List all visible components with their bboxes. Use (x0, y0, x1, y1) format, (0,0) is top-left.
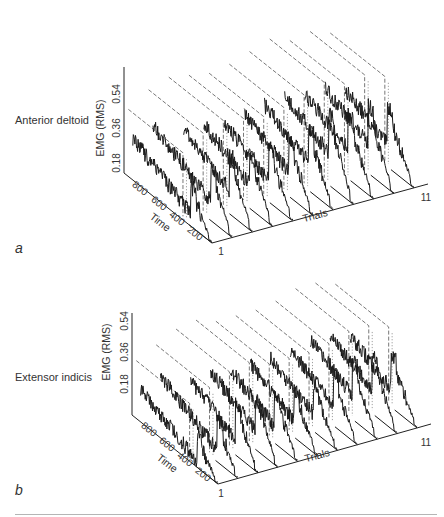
trials-tick-1: 1 (218, 488, 224, 499)
z-tick-1: 0.36 (111, 118, 122, 138)
z-axis-title: EMG (RMS) (100, 323, 112, 380)
z-tick-2: 0.54 (111, 84, 122, 104)
panel-a-plot: 0.18 0.36 0.54 EMG (RMS) 800 600 400 200… (94, 31, 432, 257)
trials-tick-11: 11 (421, 437, 432, 448)
emg-waterfall-figure: 0.18 0.36 0.54 EMG (RMS) 800 600 400 200… (0, 0, 444, 517)
trials-axis-title: Trials (303, 446, 331, 464)
time-tick-800: 800 (130, 179, 150, 198)
time-axis-title: Time (155, 451, 181, 475)
time-tick-600: 600 (149, 194, 169, 213)
z-tick-0: 0.18 (111, 153, 122, 173)
z-tick-2: 0.54 (119, 311, 130, 331)
z-tick-1: 0.36 (119, 342, 130, 362)
trials-tick-1: 1 (218, 246, 224, 257)
z-tick-0: 0.18 (119, 374, 130, 394)
bottom-rule (15, 514, 437, 515)
trials-tick-11: 11 (421, 192, 432, 203)
z-axis-title: EMG (RMS) (94, 99, 106, 156)
emg-trace-trial-9 (305, 91, 374, 199)
panel-b-plot: 0.18 0.36 0.54 EMG (RMS) 800 600 400 200… (100, 283, 432, 499)
